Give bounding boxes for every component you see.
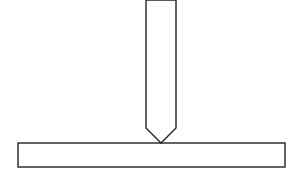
- rod-outline: [146, 0, 176, 143]
- plate: [18, 143, 285, 167]
- plate-outline: [18, 143, 285, 167]
- diagram-canvas: [0, 0, 286, 177]
- rod-on-plate-diagram: [0, 0, 286, 177]
- rod: [146, 0, 176, 143]
